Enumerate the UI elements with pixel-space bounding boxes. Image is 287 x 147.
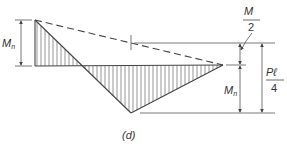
moment-diagram: Mn Mn M 2 Pℓ 4 (d)	[0, 0, 287, 147]
positive-moment-region	[82, 65, 223, 113]
svg-text:4: 4	[271, 82, 277, 94]
figure-caption: (d)	[122, 129, 136, 141]
svg-text:M: M	[244, 5, 254, 17]
svg-text:Mn: Mn	[224, 84, 237, 97]
right-inner-dimension	[226, 33, 252, 112]
svg-text:Pℓ: Pℓ	[266, 66, 277, 78]
svg-text:2: 2	[248, 21, 254, 33]
left-dimension	[15, 20, 32, 66]
svg-text:Mn: Mn	[2, 37, 15, 50]
